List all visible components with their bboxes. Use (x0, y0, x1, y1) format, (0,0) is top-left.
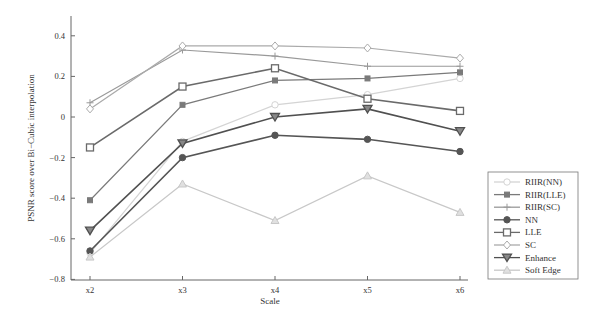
legend-label: LLE (525, 227, 542, 237)
legend-label: NN (525, 215, 538, 225)
y-tick-label: 0.2 (54, 71, 65, 81)
x-tick-label: x5 (363, 285, 372, 295)
legend-label: RIIR(NN) (525, 177, 562, 187)
y-tick-label: −0.8 (50, 274, 65, 284)
x-tick-label: x6 (456, 285, 465, 295)
y-axis-label: PSNR score over Bi−Cubic interpolation (26, 74, 36, 222)
series-layer (86, 42, 465, 260)
series-nn (87, 132, 463, 254)
line-chart: 0.40.20−0.2−0.4−0.6−0.8x2x3x4x5x6 RIIR(N… (0, 0, 605, 317)
axes: 0.40.20−0.2−0.4−0.6−0.8x2x3x4x5x6 (50, 16, 468, 295)
series-riir-nn (87, 75, 463, 256)
x-tick-label: x4 (271, 285, 280, 295)
legend-box (488, 172, 578, 279)
legend-label: RIIR(SC) (525, 202, 560, 212)
x-tick-label: x3 (178, 285, 187, 295)
x-tick-label: x2 (86, 285, 95, 295)
legend-label: Enhance (525, 253, 556, 263)
y-tick-label: 0.4 (54, 31, 65, 41)
x-axis-label: Scale (260, 296, 280, 306)
y-tick-label: −0.6 (50, 234, 65, 244)
y-tick-label: −0.2 (50, 153, 65, 163)
legend-label: RIIR(LLE) (525, 190, 566, 200)
legend: RIIR(NN)RIIR(LLE)RIIR(SC)NNLLESCEnhanceS… (488, 172, 578, 279)
series-soft-edge (86, 172, 464, 260)
y-tick-label: 0 (61, 112, 65, 122)
legend-label: Soft Edge (525, 265, 561, 275)
y-tick-label: −0.4 (50, 193, 66, 203)
legend-label: SC (525, 240, 536, 250)
